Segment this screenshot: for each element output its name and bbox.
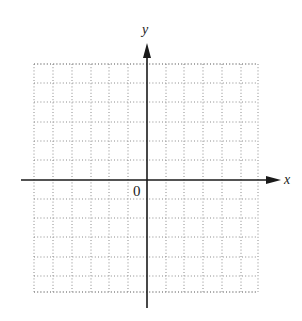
coordinate-plane: x y 0 [0, 0, 302, 321]
y-axis-arrow-icon [143, 43, 151, 58]
dotted-grid [34, 64, 258, 292]
y-axis-label: y [140, 22, 149, 37]
x-axis-arrow-icon [266, 176, 281, 184]
x-axis-label: x [283, 172, 291, 187]
origin-label: 0 [133, 183, 141, 199]
